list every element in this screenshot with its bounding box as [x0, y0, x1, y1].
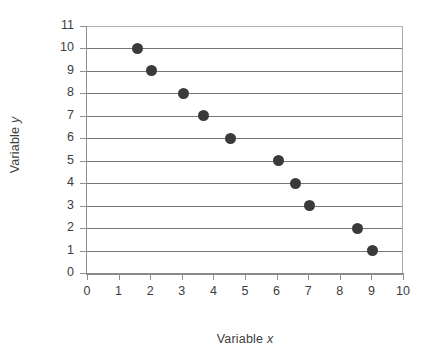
- x-axis-tick-label: 5: [233, 284, 257, 298]
- y-axis-tick-label: 6: [46, 130, 74, 144]
- x-axis-tick-label: 0: [75, 284, 99, 298]
- gridline: [87, 183, 402, 184]
- x-axis-tick-label: 8: [328, 284, 352, 298]
- y-axis-tick-label: 5: [46, 153, 74, 167]
- y-axis-tick-label: 11: [46, 18, 74, 32]
- x-axis-title-text: Variable: [217, 332, 267, 346]
- data-point: [290, 178, 301, 189]
- scatter-chart: Variable y 01234567891011012345678910 Va…: [0, 0, 427, 363]
- y-axis-tick-label: 9: [46, 63, 74, 77]
- gridline: [87, 206, 402, 207]
- gridline: [87, 26, 402, 27]
- gridline: [87, 138, 402, 139]
- x-axis-tick-label: 2: [138, 284, 162, 298]
- x-axis-tick: [277, 274, 278, 280]
- y-axis-tick: [80, 26, 87, 27]
- y-axis-tick: [80, 273, 87, 274]
- plot-area: [87, 26, 403, 273]
- x-axis-tick: [245, 274, 246, 280]
- y-axis-tick: [80, 228, 87, 229]
- gridline: [87, 116, 402, 117]
- data-point: [273, 155, 284, 166]
- x-axis-tick: [150, 274, 151, 280]
- y-axis-tick-label: 2: [46, 220, 74, 234]
- y-axis-tick-label: 1: [46, 243, 74, 257]
- gridline: [87, 71, 402, 72]
- x-axis-title-variable: x: [267, 332, 273, 346]
- x-axis-tick: [182, 274, 183, 280]
- y-axis-tick-label: 3: [46, 198, 74, 212]
- y-axis-tick: [80, 138, 87, 139]
- data-point: [132, 43, 143, 54]
- y-axis-tick: [80, 206, 87, 207]
- x-axis-tick: [403, 274, 404, 280]
- x-axis-tick-label: 7: [296, 284, 320, 298]
- y-axis-tick-label: 7: [46, 108, 74, 122]
- x-axis-tick: [119, 274, 120, 280]
- y-axis-tick: [80, 161, 87, 162]
- x-axis-tick: [371, 274, 372, 280]
- y-axis-tick: [80, 93, 87, 94]
- y-axis-tick-label: 8: [46, 85, 74, 99]
- x-axis-tick: [87, 274, 88, 280]
- x-axis-tick: [213, 274, 214, 280]
- x-axis-tick: [340, 274, 341, 280]
- gridline: [87, 251, 402, 252]
- data-point: [178, 88, 189, 99]
- y-axis-tick: [80, 71, 87, 72]
- y-axis-tick-label: 10: [46, 40, 74, 54]
- y-axis-title: Variable y: [0, 0, 30, 290]
- y-axis-title-text: Variable: [8, 123, 22, 173]
- data-point: [225, 133, 236, 144]
- x-axis-tick-label: 9: [359, 284, 383, 298]
- x-axis-tick-label: 1: [107, 284, 131, 298]
- x-axis-tick: [308, 274, 309, 280]
- y-axis-tick: [80, 183, 87, 184]
- y-axis-tick-label: 0: [46, 265, 74, 279]
- y-axis-title-variable: y: [8, 117, 22, 123]
- gridline: [87, 93, 402, 94]
- y-axis-line: [86, 26, 87, 274]
- y-axis-tick: [80, 48, 87, 49]
- y-axis-tick: [80, 251, 87, 252]
- x-axis-tick-label: 3: [170, 284, 194, 298]
- x-axis-tick-label: 6: [265, 284, 289, 298]
- x-axis-tick-label: 4: [201, 284, 225, 298]
- gridline: [87, 161, 402, 162]
- data-point: [352, 223, 363, 234]
- x-axis-tick-label: 10: [391, 284, 415, 298]
- x-axis-title: Variable x: [87, 332, 403, 346]
- y-axis-tick: [80, 116, 87, 117]
- y-axis-tick-label: 4: [46, 175, 74, 189]
